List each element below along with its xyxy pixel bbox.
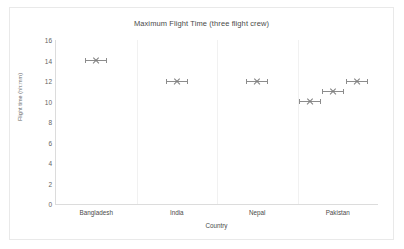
y-tick-label-2: 4 <box>30 160 52 167</box>
x-marker-icon <box>92 57 100 65</box>
x-category-label-india: India <box>170 209 184 216</box>
y-tick-label-0: 0 <box>30 201 52 208</box>
plot-area <box>56 40 378 204</box>
error-bar-cap-left <box>299 99 300 104</box>
error-bar-cap-right <box>187 79 188 84</box>
error-bar-cap-right <box>320 99 321 104</box>
chart-frame: Maximum Flight Time (three flight crew) … <box>9 7 394 240</box>
x-category-label-bangladesh: Bangladesh <box>80 209 113 216</box>
error-bar-cap-left <box>85 58 86 63</box>
x-marker-icon <box>253 77 261 85</box>
x-axis-title: Country <box>55 222 378 229</box>
error-bar-cap-left <box>246 79 247 84</box>
x-marker-icon <box>306 98 314 106</box>
category-divider <box>298 40 299 204</box>
x-axis-line <box>55 204 378 205</box>
y-tick-label-8: 16 <box>30 37 52 44</box>
x-marker-icon <box>353 77 361 85</box>
y-tick-label-1: 2 <box>30 180 52 187</box>
error-bar-cap-left <box>322 89 323 94</box>
y-tick-label-7: 14 <box>30 57 52 64</box>
y-tick-label-6: 12 <box>30 78 52 85</box>
error-bar-cap-right <box>267 79 268 84</box>
y-tick-label-5: 10 <box>30 98 52 105</box>
error-bar-cap-left <box>346 79 347 84</box>
x-category-label-pakistan: Pakistan <box>326 209 350 216</box>
category-divider <box>137 40 138 204</box>
x-marker-icon <box>173 77 181 85</box>
error-bar-cap-right <box>343 89 344 94</box>
error-bar-cap-left <box>166 79 167 84</box>
category-divider <box>217 40 218 204</box>
y-tick-label-3: 6 <box>30 139 52 146</box>
x-category-label-nepal: Nepal <box>249 209 265 216</box>
y-tick-label-4: 8 <box>30 119 52 126</box>
chart-title: Maximum Flight Time (three flight crew) <box>10 19 393 28</box>
x-marker-icon <box>329 87 337 95</box>
error-bar-cap-right <box>367 79 368 84</box>
error-bar-cap-right <box>106 58 107 63</box>
y-axis-tick-labels: 0246810121416 <box>28 40 52 204</box>
y-axis-title: Flight time (hh:mm) <box>17 65 23 129</box>
